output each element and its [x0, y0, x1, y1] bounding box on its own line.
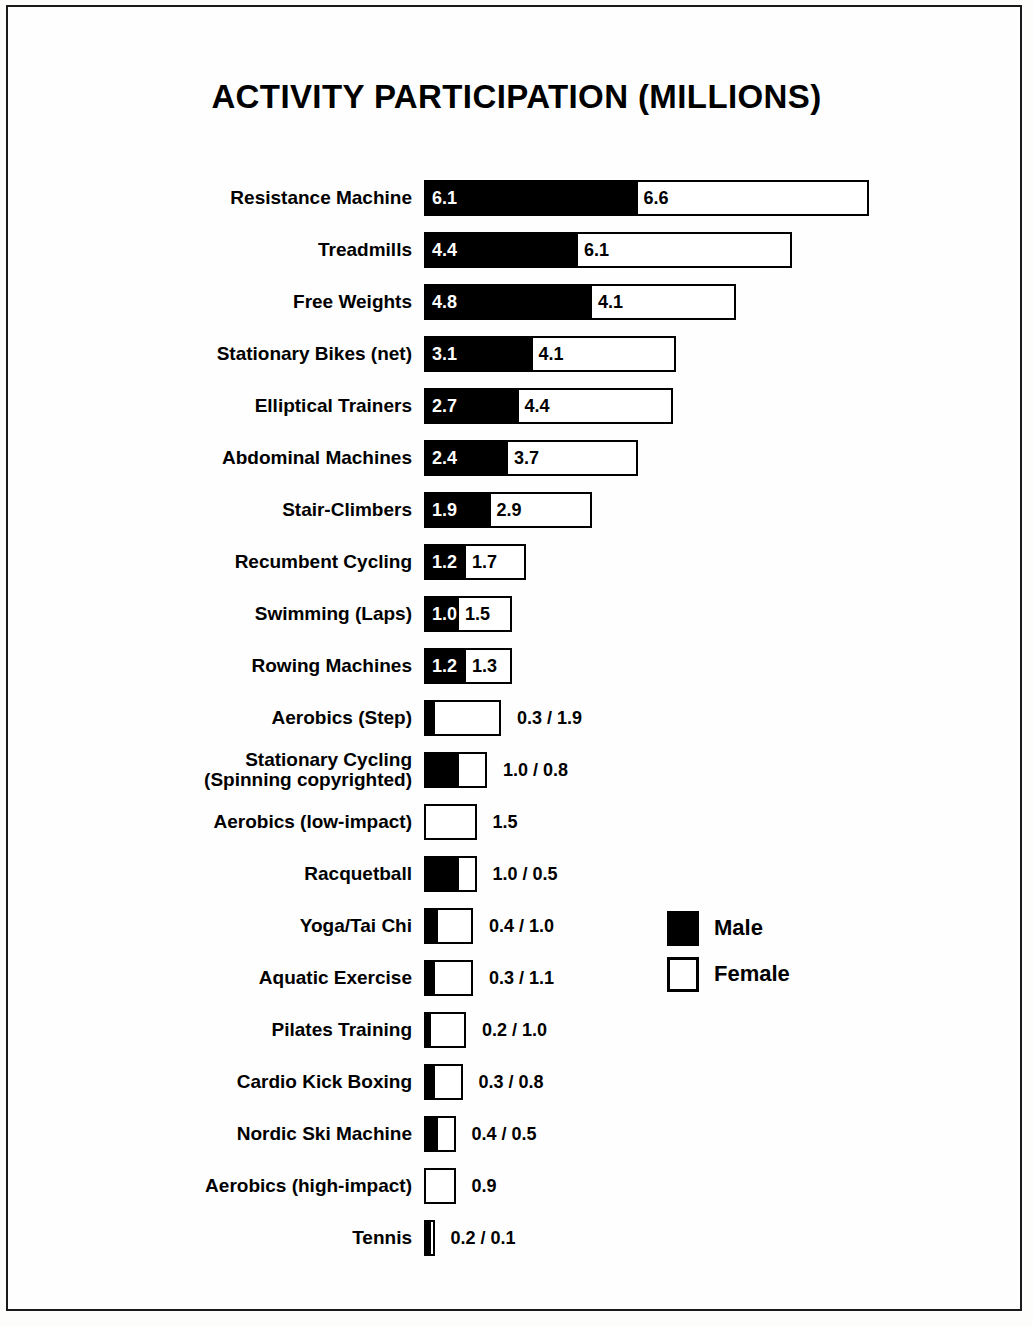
bar-segment-male — [424, 908, 438, 944]
bar-segment-male: 1.9 — [424, 492, 491, 528]
bar-value-female: 4.1 — [592, 292, 623, 313]
chart-row: Treadmills4.46.1 — [0, 224, 1033, 276]
chart-title: ACTIVITY PARTICIPATION (MILLIONS) — [0, 78, 1033, 116]
category-label: Abdominal Machines — [0, 448, 412, 468]
stacked-bar: 1.01.5 — [424, 596, 512, 632]
bar-segment-female — [438, 1116, 456, 1152]
category-label: Nordic Ski Machine — [0, 1124, 412, 1144]
bar-segment-female — [438, 908, 473, 944]
bar-value-outside: 1.0 / 0.5 — [493, 864, 558, 885]
bar-segment-male — [424, 1012, 431, 1048]
legend-swatch-male-icon — [667, 911, 699, 946]
stacked-bar: 6.16.6 — [424, 180, 869, 216]
bar-value-outside: 0.9 — [472, 1176, 497, 1197]
bar-segment-male — [424, 1116, 438, 1152]
bar-segment-male: 6.1 — [424, 180, 638, 216]
bar-value-outside: 0.3 / 1.1 — [489, 968, 554, 989]
bar-value-female: 1.3 — [466, 656, 497, 677]
bar-value-outside: 1.5 — [493, 812, 518, 833]
bar-segment-male: 3.1 — [424, 336, 533, 372]
bar-value-male: 2.4 — [426, 448, 457, 469]
category-label: Racquetball — [0, 864, 412, 884]
bar-segment-male: 1.2 — [424, 544, 466, 580]
chart-row: Aerobics (Step)0.3 / 1.9 — [0, 692, 1033, 744]
bar-value-male: 2.7 — [426, 396, 457, 417]
bar-value-outside: 0.2 / 0.1 — [451, 1228, 516, 1249]
bar-value-male: 4.4 — [426, 240, 457, 261]
chart-row: Yoga/Tai Chi0.4 / 1.0 — [0, 900, 1033, 952]
category-label: Stationary Bikes (net) — [0, 344, 412, 364]
stacked-bar: 4.46.1 — [424, 232, 792, 268]
bar-segment-male — [424, 856, 459, 892]
category-label: Aquatic Exercise — [0, 968, 412, 988]
legend-swatch-female-icon — [667, 957, 699, 992]
chart-row: Elliptical Trainers2.74.4 — [0, 380, 1033, 432]
bar-value-female: 4.4 — [519, 396, 550, 417]
bar-value-female: 1.5 — [459, 604, 490, 625]
bar-value-outside: 0.4 / 1.0 — [489, 916, 554, 937]
stacked-bar: 3.14.1 — [424, 336, 676, 372]
bar-value-male: 6.1 — [426, 188, 457, 209]
stacked-bar: 2.74.4 — [424, 388, 673, 424]
bar-segment-male: 1.0 — [424, 596, 459, 632]
bar-value-male: 1.9 — [426, 500, 457, 521]
chart-page: ACTIVITY PARTICIPATION (MILLIONS) Resist… — [0, 0, 1033, 1326]
chart-row: Aerobics (low-impact)1.5 — [0, 796, 1033, 848]
stacked-bar — [424, 1220, 435, 1256]
bar-segment-female: 4.4 — [519, 388, 673, 424]
chart-row: Aquatic Exercise0.3 / 1.1 — [0, 952, 1033, 1004]
bar-segment-female: 4.1 — [592, 284, 736, 320]
bar-segment-female — [424, 804, 477, 840]
bar-segment-male — [424, 960, 435, 996]
category-label: Free Weights — [0, 292, 412, 312]
bar-segment-female: 2.9 — [491, 492, 593, 528]
bar-value-male: 1.0 — [426, 604, 457, 625]
chart-row: Aerobics (high-impact)0.9 — [0, 1160, 1033, 1212]
category-label: Aerobics (high-impact) — [0, 1176, 412, 1196]
stacked-bar — [424, 1116, 456, 1152]
bar-segment-male: 2.7 — [424, 388, 519, 424]
category-label: Tennis — [0, 1228, 412, 1248]
bar-segment-female: 1.3 — [466, 648, 512, 684]
category-label: Rowing Machines — [0, 656, 412, 676]
bar-segment-male — [424, 1220, 431, 1256]
bar-value-outside: 1.0 / 0.8 — [503, 760, 568, 781]
bar-value-outside: 0.2 / 1.0 — [482, 1020, 547, 1041]
stacked-bar: 2.43.7 — [424, 440, 638, 476]
bar-value-female: 3.7 — [508, 448, 539, 469]
chart-row: Stationary Bikes (net)3.14.1 — [0, 328, 1033, 380]
chart-row: Swimming (Laps)1.01.5 — [0, 588, 1033, 640]
category-label: Elliptical Trainers — [0, 396, 412, 416]
bar-segment-female — [459, 752, 487, 788]
chart-legend: Male Female — [667, 905, 790, 997]
bar-segment-female: 6.1 — [578, 232, 792, 268]
stacked-bar — [424, 1064, 463, 1100]
chart-row: Stationary Cycling (Spinning copyrighted… — [0, 744, 1033, 796]
legend-item-male: Male — [667, 905, 790, 951]
stacked-bar — [424, 700, 501, 736]
category-label: Treadmills — [0, 240, 412, 260]
chart-row: Stair-Climbers1.92.9 — [0, 484, 1033, 536]
bar-segment-female — [431, 1220, 435, 1256]
bar-value-outside: 0.4 / 0.5 — [472, 1124, 537, 1145]
bar-value-female: 2.9 — [491, 500, 522, 521]
chart-row: Resistance Machine6.16.6 — [0, 172, 1033, 224]
category-label: Aerobics (Step) — [0, 708, 412, 728]
bar-segment-female — [459, 856, 477, 892]
bar-value-female: 6.6 — [638, 188, 669, 209]
bar-segment-female — [431, 1012, 466, 1048]
stacked-bar: 1.92.9 — [424, 492, 592, 528]
bar-value-female: 6.1 — [578, 240, 609, 261]
chart-row: Racquetball1.0 / 0.5 — [0, 848, 1033, 900]
chart-row: Nordic Ski Machine0.4 / 0.5 — [0, 1108, 1033, 1160]
category-label: Yoga/Tai Chi — [0, 916, 412, 936]
bar-value-female: 1.7 — [466, 552, 497, 573]
bar-value-male: 3.1 — [426, 344, 457, 365]
stacked-bar — [424, 1012, 466, 1048]
stacked-bar — [424, 908, 473, 944]
category-label: Swimming (Laps) — [0, 604, 412, 624]
chart-row: Abdominal Machines2.43.7 — [0, 432, 1033, 484]
bar-segment-female: 1.7 — [466, 544, 526, 580]
bar-segment-female — [435, 960, 474, 996]
chart-row: Rowing Machines1.21.3 — [0, 640, 1033, 692]
